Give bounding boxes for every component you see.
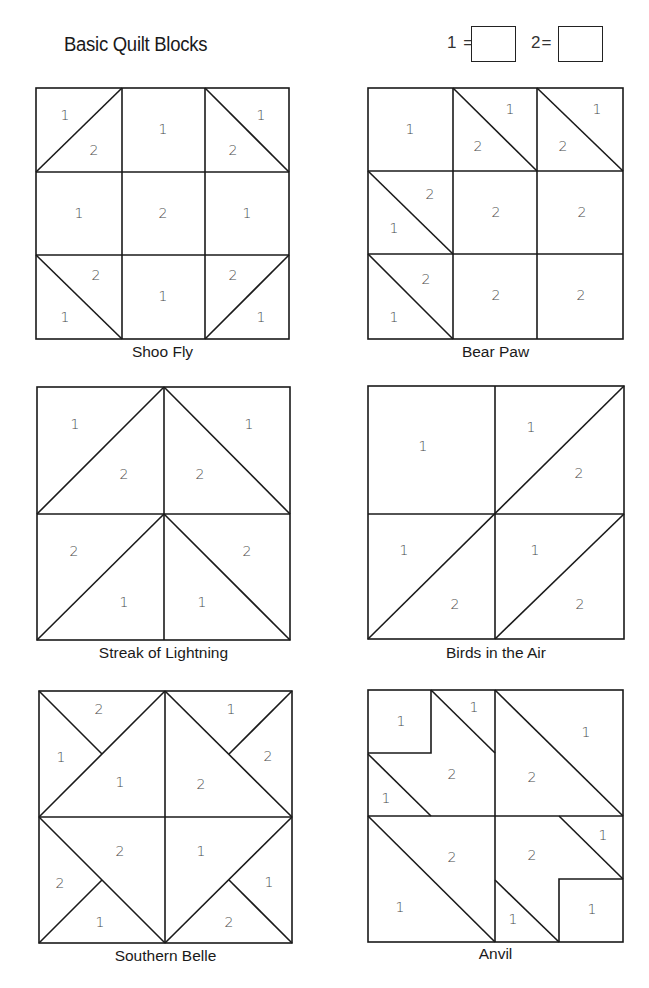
patch-label: 2 [92, 267, 101, 283]
block-caption: Streak of Lightning [37, 644, 290, 662]
anvil-diagram: 1 1 2 1 2 1 2 1 2 1 1 1 [368, 690, 623, 942]
patch-label: 1 [599, 827, 608, 843]
patch-label: 1 [243, 205, 252, 221]
patch-label: 1 [400, 542, 409, 558]
patch-label: 1 [75, 205, 84, 221]
page-title: Basic Quilt Blocks [64, 33, 207, 56]
patch-label: 2 [474, 138, 483, 154]
quilt-block-shoo-fly: 1 2 1 1 2 1 2 1 2 1 1 2 1 [36, 88, 289, 339]
southern-belle-diagram: 2 1 1 1 2 2 2 2 1 1 1 2 [39, 691, 292, 943]
birds-in-the-air-diagram: 1 1 2 1 2 1 2 [368, 386, 624, 639]
quilt-block-birds-in-the-air: 1 1 2 1 2 1 2 [368, 386, 624, 639]
patch-label: 1 [257, 309, 266, 325]
patch-label: 1 [419, 438, 428, 454]
patch-label: 1 [116, 774, 125, 790]
patch-label: 2 [264, 748, 273, 764]
patch-label: 1 [245, 416, 254, 432]
patch-label: 2 [492, 204, 501, 220]
patch-label: 1 [159, 288, 168, 304]
legend-swatch-1[interactable] [471, 26, 516, 62]
patch-label: 2 [243, 543, 252, 559]
patch-label: 1 [71, 416, 80, 432]
patch-label: 1 [509, 911, 518, 927]
streak-of-lightning-diagram: 1 2 2 1 2 1 1 2 [37, 387, 290, 640]
patch-label: 2 [197, 776, 206, 792]
patch-label: 2 [559, 138, 568, 154]
patch-label: 2 [70, 543, 79, 559]
patch-label: 2 [577, 287, 586, 303]
patch-label: 2 [229, 142, 238, 158]
patch-label: 2 [159, 205, 168, 221]
quilt-block-southern-belle: 2 1 1 1 2 2 2 2 1 1 1 2 [39, 691, 292, 943]
patch-label: 1 [506, 101, 515, 117]
patch-label: 2 [448, 766, 457, 782]
patch-label: 1 [397, 713, 406, 729]
patch-label: 2 [90, 142, 99, 158]
patch-label: 1 [257, 107, 266, 123]
bear-paw-diagram: 1 1 2 1 2 2 1 2 2 2 1 2 2 [368, 88, 623, 339]
patch-label: 1 [406, 121, 415, 137]
patch-label: 2 [120, 466, 129, 482]
patch-label: 1 [470, 699, 479, 715]
block-caption: Southern Belle [39, 947, 292, 965]
quilt-block-anvil: 1 1 2 1 2 1 2 1 2 1 1 1 [368, 690, 623, 942]
patch-label: 2 [448, 849, 457, 865]
patch-label: 2 [422, 271, 431, 287]
block-caption: Bear Paw [368, 343, 623, 361]
legend-swatch-2[interactable] [558, 26, 603, 62]
quilt-block-streak-of-lightning: 1 2 2 1 2 1 1 2 [37, 387, 290, 640]
block-caption: Shoo Fly [36, 343, 289, 361]
patch-label: 1 [96, 914, 105, 930]
patch-label: 2 [196, 466, 205, 482]
patch-label: 1 [390, 309, 399, 325]
patch-label: 1 [531, 542, 540, 558]
patch-label: 2 [56, 875, 65, 891]
shoo-fly-diagram: 1 2 1 1 2 1 2 1 2 1 1 2 1 [36, 88, 289, 339]
patch-label: 2 [229, 267, 238, 283]
patch-label: 1 [527, 419, 536, 435]
patch-label: 2 [116, 843, 125, 859]
patch-label: 2 [492, 287, 501, 303]
patch-label: 1 [198, 594, 207, 610]
patch-label: 1 [265, 874, 274, 890]
patch-label: 2 [575, 465, 584, 481]
quilt-block-bear-paw: 1 1 2 1 2 2 1 2 2 2 1 2 2 [368, 88, 623, 339]
block-caption: Anvil [368, 945, 623, 963]
patch-label: 1 [593, 101, 602, 117]
patch-label: 1 [582, 724, 591, 740]
patch-label: 1 [159, 121, 168, 137]
patch-label: 2 [426, 186, 435, 202]
patch-label: 1 [197, 843, 206, 859]
patch-label: 1 [227, 701, 236, 717]
patch-label: 1 [120, 594, 129, 610]
patch-label: 2 [225, 914, 234, 930]
patch-label: 1 [588, 901, 597, 917]
patch-label: 1 [390, 220, 399, 236]
patch-label: 2 [451, 596, 460, 612]
patch-label: 1 [396, 899, 405, 915]
patch-label: 2 [528, 847, 537, 863]
block-caption: Birds in the Air [368, 644, 624, 662]
patch-label: 1 [382, 790, 391, 806]
legend-label-2: 2= [531, 33, 552, 53]
patch-label: 2 [95, 701, 104, 717]
patch-label: 2 [576, 596, 585, 612]
patch-label: 1 [61, 309, 70, 325]
patch-label: 2 [528, 769, 537, 785]
patch-label: 1 [57, 749, 66, 765]
patch-label: 1 [61, 107, 70, 123]
patch-label: 2 [578, 204, 587, 220]
